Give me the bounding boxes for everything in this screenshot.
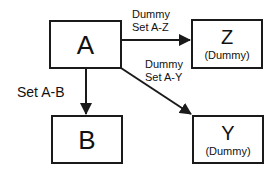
node-y-subtitle: (Dummy) xyxy=(205,146,250,157)
edge-a-y-label-line2: Set A-Y xyxy=(145,71,182,84)
node-y-title: Y xyxy=(221,123,234,143)
node-z: Z (Dummy) xyxy=(191,19,263,69)
node-z-subtitle: (Dummy) xyxy=(204,50,249,61)
edge-a-y-label-line1: Dummy xyxy=(145,58,183,71)
diagram-canvas: A Z (Dummy) B Y (Dummy) Dummy Set A-Z Du… xyxy=(0,0,278,175)
edge-a-b-label: Set A-B xyxy=(17,84,64,100)
node-y: Y (Dummy) xyxy=(192,115,264,164)
node-z-title: Z xyxy=(221,27,233,47)
node-b: B xyxy=(51,115,123,164)
node-a-title: A xyxy=(77,32,94,58)
node-a: A xyxy=(49,20,122,69)
edge-a-z-label-line2: Set A-Z xyxy=(132,21,169,34)
node-b-title: B xyxy=(78,127,95,153)
edge-a-z-label-line1: Dummy xyxy=(132,8,170,21)
